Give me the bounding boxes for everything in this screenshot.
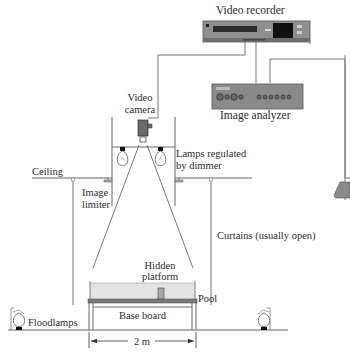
cables [148, 42, 345, 200]
video-camera-label-line2: camera [118, 104, 162, 115]
hidden-platform-label-line2: platform [130, 271, 190, 282]
image-limiter-label-line1: Image [82, 187, 108, 198]
camera-icon [138, 120, 152, 142]
light-bulb-icon [117, 147, 128, 166]
floodlamp-icon [11, 308, 25, 330]
floodlamps-label: Floodlamps [28, 317, 78, 328]
hidden-platform-label-line1: Hidden [130, 260, 190, 271]
base-board-label: Base board [100, 310, 185, 321]
image-analyzer-label: Image analyzer [220, 110, 291, 121]
pool-label: Pool [198, 293, 217, 304]
dimension-label: 2 m [126, 336, 158, 347]
video-recorder-label: Video recorder [216, 5, 285, 16]
diagram-canvas [0, 0, 350, 357]
image-limiter-label-line2: limiter [82, 199, 110, 210]
vcr-icon [203, 21, 310, 42]
analyzer-panel-icon [212, 84, 303, 109]
lamps-label-line1: Lamps regulated [176, 148, 246, 159]
monitor-icon [334, 55, 350, 198]
platform-icon [158, 288, 164, 299]
ceiling [32, 178, 252, 182]
video-camera-label-line1: Video [122, 92, 158, 103]
pool-icon [88, 281, 197, 303]
curtains-label: Curtains (usually open) [217, 230, 316, 241]
floodlamp-icon [258, 308, 270, 330]
lamps-label-line2: by dimmer [176, 160, 222, 171]
ceiling-label: Ceiling [32, 166, 63, 177]
light-bulb-icon [155, 147, 166, 166]
water-maze-diagram: Video recorder Image analyzer Video came… [0, 0, 350, 357]
